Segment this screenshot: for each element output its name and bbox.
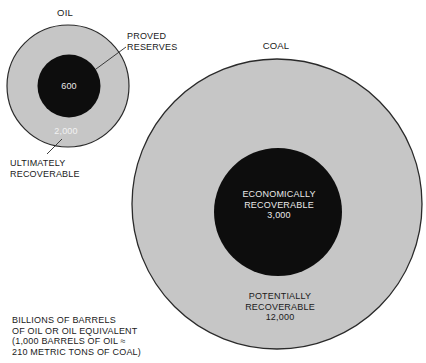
economically-recoverable-label: ECONOMICALLY RECOVERABLE 3,000	[242, 189, 315, 221]
units-note: BILLIONS OF BARRELS OF OIL OR OIL EQUIVA…	[12, 315, 141, 357]
oil-title: OIL	[57, 8, 73, 19]
circles-diagram	[0, 0, 426, 363]
coal-title: COAL	[263, 41, 290, 52]
oil-ultimate-value: 2,000	[54, 126, 78, 137]
proved-reserves-label: PROVED RESERVES	[127, 31, 177, 52]
ultimately-recoverable-label: ULTIMATELY RECOVERABLE	[10, 158, 80, 179]
oil-proved-value: 600	[61, 81, 77, 92]
potentially-recoverable-label: POTENTIALLY RECOVERABLE 12,000	[245, 291, 315, 323]
